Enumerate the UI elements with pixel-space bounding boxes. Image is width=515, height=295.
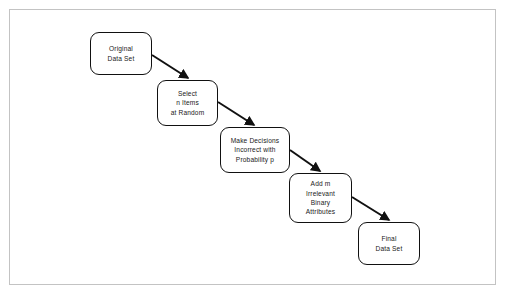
node-original-data-set[interactable]: Original Data Set (90, 32, 152, 75)
node-label-final-data-set: Final Data Set (373, 234, 406, 253)
node-label-select-n-items: Select n Items at Random (168, 89, 208, 117)
arrow-add-irrelevant-attributes-to-final-data-set (352, 197, 389, 220)
arrow-select-n-items-to-make-decisions-incorrect (218, 102, 254, 125)
arrow-original-data-set-to-select-n-items (152, 55, 188, 78)
node-final-data-set[interactable]: Final Data Set (358, 222, 420, 265)
node-add-irrelevant-attributes[interactable]: Add m Irrelevant Binary Attributes (289, 173, 352, 223)
arrow-make-decisions-incorrect-to-add-irrelevant-attributes (290, 150, 320, 171)
node-label-add-irrelevant-attributes: Add m Irrelevant Binary Attributes (303, 179, 338, 217)
node-label-make-decisions-incorrect: Make Decisions Incorrect with Probabilit… (228, 136, 283, 164)
diagram-canvas: Original Data SetSelect n Items at Rando… (0, 0, 515, 295)
node-select-n-items[interactable]: Select n Items at Random (157, 80, 218, 126)
node-make-decisions-incorrect[interactable]: Make Decisions Incorrect with Probabilit… (220, 127, 290, 173)
node-label-original-data-set: Original Data Set (105, 44, 138, 63)
